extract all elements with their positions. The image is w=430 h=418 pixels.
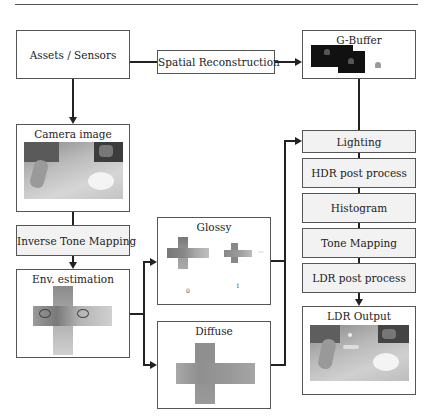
lighting-label: Lighting (303, 136, 415, 148)
diffuse-node: Diffuse (157, 321, 271, 409)
edge-tonemap-ldrpost (358, 258, 360, 263)
glossy-level-1: 1 (236, 282, 240, 289)
histogram-label: Histogram (303, 202, 415, 214)
env-cubemap-cross (33, 286, 113, 356)
arrow-head-icon (69, 117, 77, 124)
g-buffer-node: G-Buffer (302, 30, 416, 79)
lighting-node: Lighting (302, 130, 416, 153)
arrow-head-icon (69, 262, 77, 269)
edge-spatial-gbuffer (275, 61, 296, 63)
assets-sensors-node: Assets / Sensors (16, 30, 130, 79)
env-estimation-label: Env. estimation (17, 273, 129, 285)
inverse-tone-mapping-label: Inverse Tone Mapping (17, 235, 129, 247)
spatial-reconstruction-node: Spatial Reconstruction (157, 50, 275, 74)
spatial-reconstruction-label: Spatial Reconstruction (158, 56, 274, 68)
arrow-head-icon (295, 137, 302, 145)
edge-env-split (130, 313, 144, 315)
arrow-head-icon (355, 299, 363, 306)
camera-photo (24, 142, 123, 199)
top-rule (15, 4, 418, 5)
edge-hdr-histogram (358, 188, 360, 193)
arrow-head-icon (295, 58, 302, 66)
hdr-post-process-label: HDR post process (303, 167, 415, 179)
edge-diffuse-merge (271, 364, 285, 366)
g-buffer-figure-icon (375, 62, 381, 68)
env-estimation-node: Env. estimation (16, 269, 130, 358)
ldr-output-node: LDR Output (302, 306, 416, 395)
edge-camera-itm (72, 212, 74, 225)
edge-glossy-merge (271, 260, 285, 262)
assets-sensors-label: Assets / Sensors (17, 49, 129, 61)
glossy-mip-1-cross (224, 243, 252, 263)
diffuse-cubemap-cross (176, 343, 255, 404)
arrow-head-icon (150, 361, 157, 369)
g-buffer-figure-icon (348, 58, 354, 64)
camera-image-label: Camera image (17, 128, 129, 140)
glossy-mip-0-cross (167, 237, 209, 269)
edge-merge-vertical (284, 140, 286, 366)
ldr-post-process-node: LDR post process (302, 263, 416, 293)
ldr-output-photo (310, 325, 409, 381)
g-buffer-figure-icon (324, 49, 330, 55)
glossy-ellipsis: ··· (258, 248, 264, 255)
arrow-head-icon (150, 258, 157, 266)
histogram-node: Histogram (302, 193, 416, 223)
ldr-output-label: LDR Output (303, 310, 415, 322)
glossy-node: Glossy ··· 0 1 (157, 217, 271, 305)
hdr-post-process-node: HDR post process (302, 158, 416, 188)
camera-image-node: Camera image (16, 124, 130, 212)
inverse-tone-mapping-node: Inverse Tone Mapping (16, 225, 130, 256)
edge-histogram-tonemap (358, 223, 360, 228)
diffuse-label: Diffuse (158, 325, 270, 337)
tone-mapping-label: Tone Mapping (303, 237, 415, 249)
edge-gbuffer-lighting (358, 79, 360, 130)
glossy-level-0: 0 (186, 287, 190, 294)
tone-mapping-node: Tone Mapping (302, 228, 416, 258)
edge-assets-spatial (130, 61, 157, 63)
ldr-post-process-label: LDR post process (303, 272, 415, 284)
edge-split-vertical (143, 261, 145, 366)
glossy-label: Glossy (158, 221, 270, 233)
edge-assets-camera (72, 79, 74, 118)
edge-lighting-hdr (358, 153, 360, 158)
